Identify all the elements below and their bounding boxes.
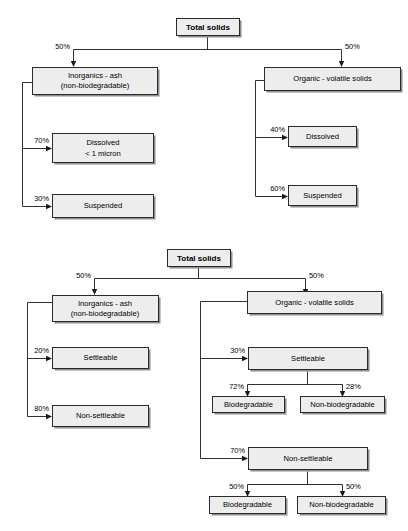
arrowhead-right-suspended <box>282 194 288 199</box>
arrowhead-right-settleable <box>242 356 248 361</box>
node-biodegradable-settleable[interactable]: Biodegradable <box>213 397 287 415</box>
node-label-line1: Dissolved <box>87 138 120 147</box>
node-label: Settleable <box>84 353 118 362</box>
node-label: Suspended <box>84 201 122 210</box>
arrowhead-right-nonsettleable <box>242 456 248 461</box>
arrowhead-left-suspended <box>46 204 52 209</box>
node-inorganics-ash-bottom[interactable]: Inorganics - ash (non-biodegradable) <box>53 296 161 324</box>
node-label: Biodegradable <box>224 400 273 409</box>
flowchart-svg: Total solids Inorganics - ash (non-biode… <box>0 0 408 531</box>
percent-label-right-b: 50% <box>309 271 324 280</box>
node-total-solids-top[interactable]: Total solids <box>177 19 242 38</box>
node-settleable-left[interactable]: Settleable <box>53 348 151 371</box>
percent-label-nonbio-2: 50% <box>346 482 361 491</box>
node-label-line1: Inorganics - ash <box>68 71 122 80</box>
node-nonsettleable-right[interactable]: Non-settleable <box>249 448 370 472</box>
node-label-line1: Inorganics - ash <box>78 299 132 308</box>
arrowhead-left-settleable <box>46 356 52 361</box>
node-label: Biodegradable <box>223 500 272 509</box>
node-label: Total solids <box>177 254 221 263</box>
node-label: Settleable <box>291 354 325 363</box>
percent-label-suspended-right: 60% <box>270 184 285 193</box>
arrowhead-left-inorganics <box>71 61 76 67</box>
percent-label-suspended-left: 30% <box>34 194 49 203</box>
node-label: Non-biodegradable <box>309 500 374 509</box>
node-label: Suspended <box>303 191 341 200</box>
edge-right-spine <box>256 81 265 197</box>
node-suspended-right-top[interactable]: Suspended <box>289 186 359 208</box>
node-total-solids-bottom[interactable]: Total solids <box>168 250 233 269</box>
bottom-diagram-nodes: Total solids Inorganics - ash (non-biode… <box>53 250 388 516</box>
percent-label-settleable-left: 20% <box>34 346 49 355</box>
node-label: Organic - volatile solids <box>293 74 372 83</box>
top-diagram-edges <box>23 36 345 210</box>
percent-label-bio-1: 72% <box>229 382 244 391</box>
node-inorganics-ash-top[interactable]: Inorganics - ash (non-biodegradable) <box>33 68 160 97</box>
percent-label-right: 50% <box>345 42 360 51</box>
arrowhead-left-dissolved <box>46 146 52 151</box>
percent-label-left: 50% <box>55 42 70 51</box>
arrowhead-right-organic <box>339 61 344 67</box>
percent-label-nonsettleable-left: 80% <box>34 404 49 413</box>
arrowhead-left-nonsettleable <box>46 414 52 419</box>
node-suspended-left-top[interactable]: Suspended <box>53 195 156 220</box>
node-label: Total solids <box>186 23 230 32</box>
edge-right-spine-b <box>201 302 248 459</box>
node-label-line2: (non-biodegradable) <box>61 81 130 90</box>
arrowhead-left-inorganics-b <box>92 289 97 295</box>
node-nonsettleable-left[interactable]: Non-settleable <box>53 406 151 429</box>
node-settleable-right[interactable]: Settleable <box>249 348 370 372</box>
percent-label-left-b: 50% <box>76 271 91 280</box>
percent-label-nonbio-1: 28% <box>346 382 361 391</box>
node-label: Non-biodegradable <box>310 400 375 409</box>
node-label-line2: (non-biodegradable) <box>71 309 140 318</box>
node-label-line2: < 1 micron <box>85 149 121 158</box>
node-label: Dissolved <box>306 132 339 141</box>
node-nonbiodegradable-settleable[interactable]: Non-biodegradable <box>301 397 387 415</box>
node-organic-volatile-bottom[interactable]: Organic - volatile solids <box>248 292 384 316</box>
node-dissolved-left-top[interactable]: Dissolved < 1 micron <box>53 134 156 165</box>
percent-label-settleable-right: 30% <box>230 346 245 355</box>
node-dissolved-right-top[interactable]: Dissolved <box>289 127 359 149</box>
percent-label-bio-2: 50% <box>229 482 244 491</box>
node-label: Organic - volatile solids <box>275 298 354 307</box>
node-organic-volatile-top[interactable]: Organic - volatile solids <box>265 68 403 93</box>
arrowhead-right-dissolved <box>282 135 288 140</box>
node-label: Non-settleable <box>76 411 125 420</box>
diagram-canvas: Total solids Inorganics - ash (non-biode… <box>0 0 408 531</box>
node-nonbiodegradable-nonsettleable[interactable]: Non-biodegradable <box>298 497 388 516</box>
node-label: Non-settleable <box>284 454 333 463</box>
percent-label-dissolved-left: 70% <box>34 136 49 145</box>
percent-label-dissolved-right: 40% <box>270 125 285 134</box>
top-diagram-percent-labels: 50% 50% 70% 30% 40% 60% <box>34 42 360 203</box>
percent-label-nonsettleable-right: 70% <box>230 446 245 455</box>
node-biodegradable-nonsettleable[interactable]: Biodegradable <box>210 497 288 516</box>
